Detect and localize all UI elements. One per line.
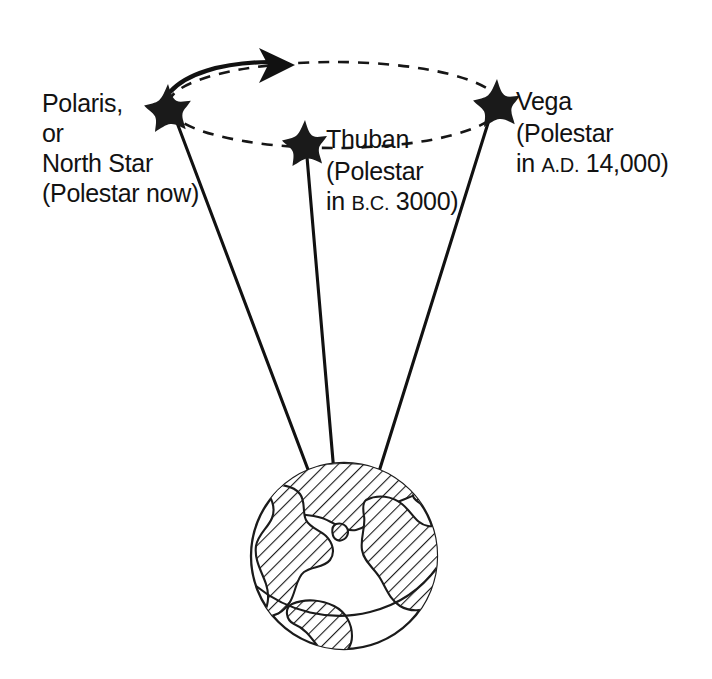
thuban-label-line2: (Polestar [326, 157, 423, 185]
vega-star-icon [473, 79, 520, 127]
vega-label: Vega (Polestar in A.D. 14,000) [516, 87, 669, 177]
polaris-label-line2: or [42, 119, 64, 147]
vega-era-prefix: in [516, 149, 542, 177]
precession-diagram: Polaris, or North Star (Polestar now) Th… [0, 0, 712, 679]
polaris-label-line1: Polaris, [42, 89, 123, 117]
vega-era-suffix: 14,000) [579, 149, 668, 177]
vega-era-abbrev: A.D. [542, 154, 580, 176]
labels-group: Polaris, or North Star (Polestar now) Th… [42, 87, 669, 215]
thuban-era-suffix: 3000) [389, 187, 458, 215]
thuban-era-prefix: in [326, 187, 352, 215]
thuban-label: Thuban (Polestar in B.C. 3000) [326, 125, 458, 215]
polaris-sight-line [176, 120, 318, 496]
figure-canvas: Polaris, or North Star (Polestar now) Th… [0, 0, 712, 679]
polaris-label-line3: North Star [42, 149, 153, 177]
vega-label-line1: Vega [516, 87, 572, 115]
island-shape [332, 523, 348, 540]
polaris-label-line4: (Polestar now) [42, 179, 199, 207]
thuban-label-line3: in B.C. 3000) [326, 187, 458, 215]
polaris-star-icon [144, 84, 191, 132]
vega-label-line2: (Polestar [516, 119, 613, 147]
thuban-label-line1: Thuban [326, 125, 409, 153]
vega-label-line3: in A.D. 14,000) [516, 149, 669, 177]
thuban-era-abbrev: B.C. [352, 192, 390, 214]
earth-globe [239, 463, 471, 656]
thuban-star-icon [282, 120, 327, 166]
